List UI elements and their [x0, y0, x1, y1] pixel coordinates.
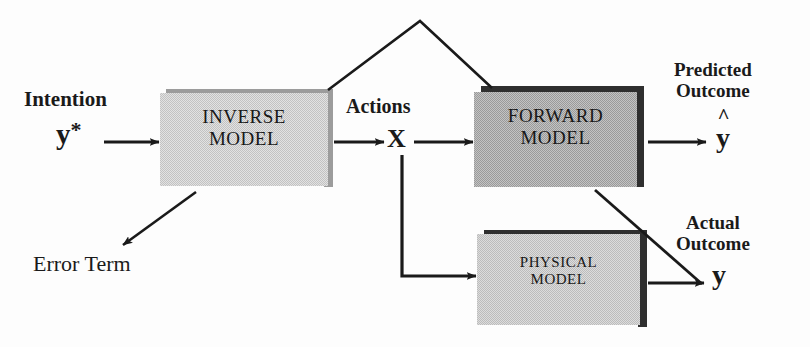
actions-symbol: X [387, 125, 406, 153]
connector-inverse-top-to-forward-top [328, 21, 492, 90]
intention-symbol-base: y [56, 118, 71, 150]
predicted-outcome-line2: Outcome [674, 81, 752, 102]
intention-superscript: * [71, 117, 82, 142]
actions-label: Actions [346, 96, 410, 118]
predicted-outcome-symbol: ^ y [716, 110, 730, 153]
forward-model-box [474, 86, 644, 187]
connector-layer [0, 0, 810, 347]
actual-outcome-line2: Outcome [676, 234, 750, 255]
predicted-outcome-line1: Predicted [674, 60, 752, 81]
predicted-outcome-label: Predicted Outcome [674, 60, 752, 101]
error-term-label: Error Term [33, 252, 131, 276]
connector-inverse-to-error-term [123, 192, 196, 245]
intention-label: Intention [24, 88, 107, 111]
diagram-canvas: INVERSE MODEL FORWARD MODEL PHYSICAL MOD… [0, 0, 810, 347]
intention-symbol: y* [56, 118, 82, 150]
physical-model-box [477, 230, 647, 327]
actual-outcome-label: Actual Outcome [676, 213, 750, 254]
actual-outcome-symbol: y [712, 260, 726, 290]
predicted-symbol-base: y [716, 122, 730, 153]
actual-outcome-line1: Actual [676, 213, 750, 234]
inverse-model-box [160, 89, 333, 187]
connector-actions-to-physical [402, 155, 476, 276]
